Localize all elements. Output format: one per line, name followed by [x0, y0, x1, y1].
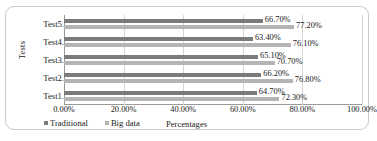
y-axis-category-labels: Test1.Test2.Test3.Test4.Test5.: [24, 15, 64, 105]
bar-value-label: 76.10%: [293, 39, 319, 48]
bar-big-data: [64, 61, 275, 65]
bar-big-data: [64, 43, 291, 47]
legend-item-traditional[interactable]: Traditional: [44, 118, 88, 128]
bar-traditional: [64, 37, 253, 41]
legend-label: Big data: [111, 118, 140, 128]
category-label-test4: Test4.: [24, 37, 64, 47]
bar-value-label: 70.70%: [277, 57, 303, 66]
chart-container: Tests Test1.Test2.Test3.Test4.Test5. 64.…: [5, 6, 369, 130]
bar-value-label: 76.80%: [295, 75, 321, 84]
bar-value-label: 77.20%: [296, 21, 322, 30]
x-axis-tick-labels: 0.00%20.00%40.00%60.00%80.00%100.00%: [64, 105, 362, 117]
bar-value-label: 72.30%: [281, 93, 307, 102]
legend-swatch-icon: [44, 121, 48, 125]
category-label-test1: Test1.: [24, 91, 64, 101]
x-tick-label: 20.00%: [111, 105, 137, 114]
bar-big-data: [64, 79, 293, 83]
bar-traditional: [64, 91, 257, 95]
bar-big-data: [64, 97, 279, 101]
bar-value-label: 63.40%: [255, 33, 281, 42]
bar-big-data: [64, 25, 294, 29]
x-tick-label: 0.00%: [53, 105, 75, 114]
category-label-test3: Test3.: [24, 55, 64, 65]
x-axis-title: Percentages: [166, 119, 207, 129]
bar-value-label: 66.20%: [263, 69, 289, 78]
bar-traditional: [64, 73, 261, 77]
x-tick-label: 100.00%: [347, 105, 377, 114]
category-label-test2: Test2.: [24, 73, 64, 83]
category-label-test5: Test5.: [24, 19, 64, 29]
plot-area: 64.70%72.30%66.20%76.80%65.10%70.70%63.4…: [64, 15, 362, 105]
legend-label: Traditional: [50, 118, 88, 128]
chart-legend: TraditionalBig data: [44, 118, 140, 128]
legend-swatch-icon: [105, 121, 109, 125]
x-tick-label: 60.00%: [230, 105, 256, 114]
bar-value-label: 66.70%: [265, 15, 291, 24]
gridline: [362, 15, 363, 105]
legend-item-big-data[interactable]: Big data: [105, 118, 140, 128]
x-tick-label: 80.00%: [289, 105, 315, 114]
bar-traditional: [64, 19, 263, 23]
x-tick-label: 40.00%: [170, 105, 196, 114]
bar-traditional: [64, 55, 258, 59]
